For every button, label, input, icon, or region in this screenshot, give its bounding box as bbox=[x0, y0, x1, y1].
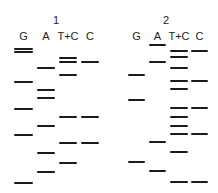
gel-band bbox=[14, 108, 33, 110]
gel-band bbox=[170, 125, 188, 127]
gel-band bbox=[170, 151, 188, 153]
lane-label: A bbox=[35, 30, 57, 42]
panel-number-2: 2 bbox=[156, 14, 176, 26]
gel-band bbox=[191, 133, 208, 135]
lane-label: T+C bbox=[168, 30, 190, 42]
panel-number-1: 1 bbox=[46, 14, 66, 26]
gel-band bbox=[170, 133, 188, 135]
gel-band bbox=[59, 57, 77, 59]
gel-band bbox=[81, 142, 99, 144]
gel-band bbox=[170, 67, 188, 69]
gel-band bbox=[170, 80, 188, 82]
gel-band bbox=[81, 116, 99, 118]
lane-label: G bbox=[126, 30, 148, 42]
gel-band bbox=[191, 50, 208, 52]
gel-band bbox=[128, 74, 145, 76]
gel-band bbox=[59, 74, 77, 76]
gel-band bbox=[14, 134, 33, 136]
gel-band bbox=[170, 116, 188, 118]
gel-band bbox=[37, 171, 55, 173]
gel-band bbox=[37, 97, 55, 99]
gel-band bbox=[14, 182, 33, 184]
gel-band bbox=[37, 67, 55, 69]
gel-band bbox=[149, 61, 166, 63]
gel-band bbox=[81, 61, 99, 63]
gel-band bbox=[170, 50, 188, 52]
gel-band bbox=[128, 99, 145, 101]
gel-band bbox=[14, 51, 33, 53]
gel-band bbox=[37, 125, 55, 127]
gel-band bbox=[170, 88, 188, 90]
gel-band bbox=[170, 56, 188, 58]
lane-label: T+C bbox=[57, 30, 79, 42]
gel-band bbox=[191, 107, 208, 109]
gel-band bbox=[170, 181, 188, 183]
gel-band bbox=[14, 81, 33, 83]
gel-band bbox=[170, 107, 188, 109]
gel-band bbox=[128, 161, 145, 163]
gel-band bbox=[191, 80, 208, 82]
gel-band bbox=[149, 141, 166, 143]
lane-label: G bbox=[13, 30, 35, 42]
gel-band bbox=[59, 116, 77, 118]
gel-band bbox=[149, 44, 166, 46]
lane-label: C bbox=[189, 30, 211, 42]
lane-label: C bbox=[79, 30, 101, 42]
gel-band bbox=[59, 142, 77, 144]
lane-label: A bbox=[147, 30, 169, 42]
gel-band bbox=[59, 61, 77, 63]
gel-band bbox=[14, 48, 33, 50]
gel-band bbox=[149, 170, 166, 172]
gel-band bbox=[37, 152, 55, 154]
gel-band bbox=[191, 181, 208, 183]
gel-band bbox=[37, 89, 55, 91]
gel-band bbox=[59, 162, 77, 164]
